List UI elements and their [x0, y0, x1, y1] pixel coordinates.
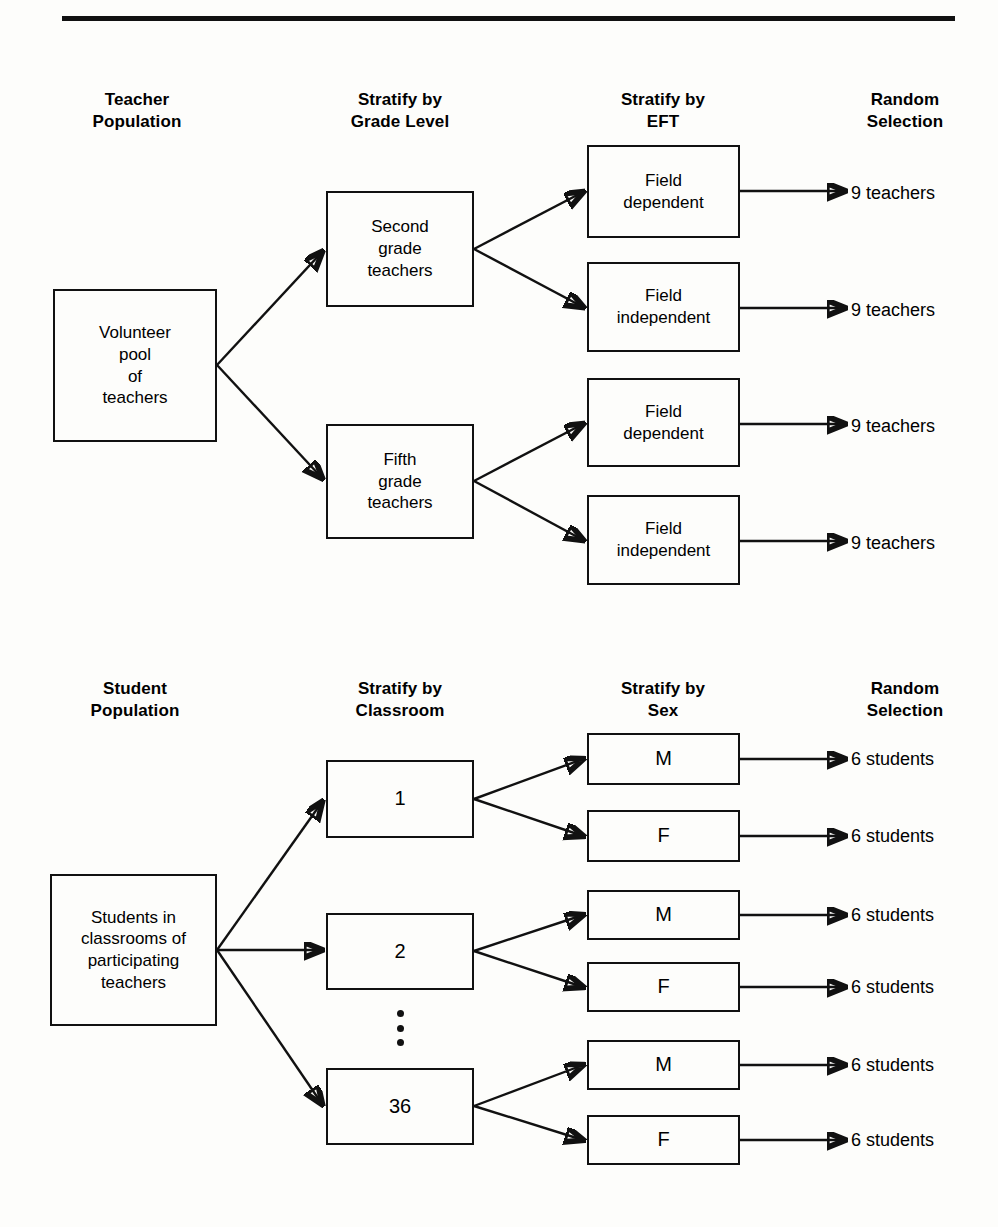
connector-class36-to-m: [474, 1065, 583, 1106]
student-classroom-box-2: 2: [326, 913, 474, 990]
student-classroom-box-1: 1: [326, 760, 474, 838]
connector-student-pop-to-class36: [217, 950, 322, 1104]
teacher-header-grade-level: Stratify by Grade Level: [320, 89, 480, 133]
teacher-selection-label-4: 9 teachers: [851, 534, 935, 552]
student-header-sex: Stratify by Sex: [583, 678, 743, 722]
student-sex-group-box-2: F: [587, 810, 740, 862]
teacher-eft-group-box-1: Field dependent: [587, 145, 740, 238]
student-sex-group-box-4: F: [587, 962, 740, 1012]
student-header-classroom: Stratify by Classroom: [320, 678, 480, 722]
connector-student-pop-to-class1: [217, 802, 322, 950]
figure-page: Teacher Population Stratify by Grade Lev…: [0, 0, 998, 1227]
student-sex-group-box-3: M: [587, 890, 740, 940]
student-selection-label-1: 6 students: [851, 750, 934, 768]
student-header-random-selection: Random Selection: [825, 678, 985, 722]
teacher-stratum-second-grade-box: Second grade teachers: [326, 191, 474, 307]
connector-teacher-pop-to-fifth: [217, 365, 322, 478]
connector-class2-to-m: [474, 915, 583, 951]
teacher-header-random-selection: Random Selection: [825, 89, 985, 133]
connector-fifth-to-eft3: [474, 424, 583, 481]
connector-teacher-pop-to-second: [217, 252, 322, 365]
connector-class2-to-f: [474, 951, 583, 987]
student-sex-group-box-5: M: [587, 1040, 740, 1090]
teacher-selection-label-3: 9 teachers: [851, 417, 935, 435]
teacher-population-box: Volunteer pool of teachers: [53, 289, 217, 442]
connector-class1-to-m: [474, 759, 583, 799]
student-selection-label-5: 6 students: [851, 1056, 934, 1074]
student-selection-label-6: 6 students: [851, 1131, 934, 1149]
teacher-selection-label-1: 9 teachers: [851, 184, 935, 202]
connector-second-to-eft1: [474, 192, 583, 249]
connector-layer: [0, 0, 998, 1227]
teacher-eft-group-box-3: Field dependent: [587, 378, 740, 467]
student-selection-label-2: 6 students: [851, 827, 934, 845]
connector-class36-to-f: [474, 1106, 583, 1140]
student-sex-group-box-1: M: [587, 733, 740, 785]
student-selection-label-3: 6 students: [851, 906, 934, 924]
student-population-box: Students in classrooms of participating …: [50, 874, 217, 1026]
student-selection-label-4: 6 students: [851, 978, 934, 996]
teacher-stratum-fifth-grade-box: Fifth grade teachers: [326, 424, 474, 539]
teacher-eft-group-box-4: Field independent: [587, 495, 740, 585]
student-header-population: Student Population: [55, 678, 215, 722]
student-sex-group-box-6: F: [587, 1115, 740, 1165]
student-classroom-box-36: 36: [326, 1068, 474, 1145]
top-divider-rule: [62, 16, 955, 21]
teacher-header-eft: Stratify by EFT: [583, 89, 743, 133]
connector-second-to-eft2: [474, 249, 583, 307]
vertical-ellipsis-icon: [396, 1010, 404, 1046]
teacher-selection-label-2: 9 teachers: [851, 301, 935, 319]
teacher-header-population: Teacher Population: [57, 89, 217, 133]
connector-class1-to-f: [474, 799, 583, 836]
teacher-eft-group-box-2: Field independent: [587, 262, 740, 352]
connector-fifth-to-eft4: [474, 481, 583, 540]
